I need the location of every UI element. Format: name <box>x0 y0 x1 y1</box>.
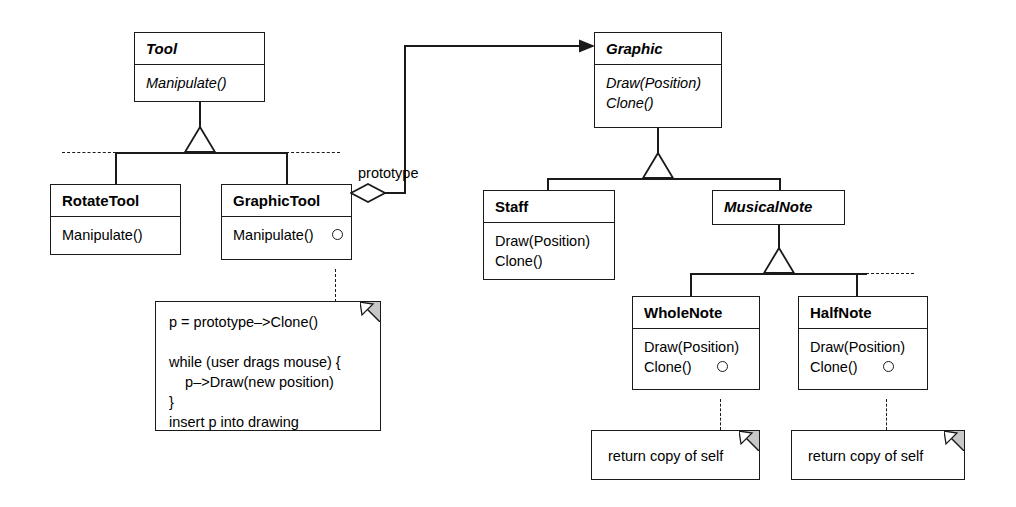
class-box-wholenote[interactable]: WholeNote Draw(Position) Clone() <box>632 296 760 390</box>
operation-manipulate: Manipulate() <box>146 73 253 93</box>
operation-draw: Draw(Position) <box>644 337 748 357</box>
class-box-tool[interactable]: Tool Manipulate() <box>134 32 265 102</box>
class-name-graphictool: GraphicTool <box>222 185 351 217</box>
generalization-drop-rotatetool <box>115 152 117 184</box>
class-operations-staff: Draw(Position) Clone() <box>484 223 614 277</box>
class-name-wholenote: WholeNote <box>633 297 759 329</box>
generalization-drop-halfnote <box>856 273 858 296</box>
class-name-graphic: Graphic <box>595 33 721 65</box>
generalization-drop-musicalnote <box>779 178 781 190</box>
class-operations-halfnote: Draw(Position) Clone() <box>799 329 927 383</box>
operation-clone: Clone() <box>810 357 916 377</box>
operation-draw: Draw(Position) <box>495 231 603 251</box>
operation-manipulate: Manipulate() <box>62 225 169 245</box>
prototype-link-arrowhead-icon <box>576 38 596 54</box>
operation-draw: Draw(Position) <box>606 73 710 93</box>
generalization-bar-dash-right-tool <box>286 152 340 153</box>
class-name-rotatetool: RotateTool <box>51 185 180 217</box>
uml-class-diagram: Tool Manipulate() RotateTool Manipulate(… <box>0 0 1016 507</box>
operation-clone: Clone() <box>495 251 603 271</box>
class-name-staff: Staff <box>484 191 614 223</box>
note-fold-icon <box>739 431 759 451</box>
operation-note-anchor-icon <box>883 361 894 372</box>
class-box-graphictool[interactable]: GraphicTool Manipulate() <box>221 184 352 260</box>
operation-note-anchor-icon <box>717 361 728 372</box>
generalization-bar-tool <box>115 152 287 154</box>
note-wholenote-clone[interactable]: return copy of self <box>591 430 760 480</box>
class-operations-wholenote: Draw(Position) Clone() <box>633 329 759 383</box>
note-fold-icon <box>944 431 964 451</box>
class-operations-graphic: Draw(Position) Clone() <box>595 65 721 119</box>
aggregation-diamond-prototype <box>350 182 386 204</box>
generalization-bar-graphic <box>547 178 780 180</box>
note-text: return copy of self <box>792 431 964 480</box>
class-name-tool: Tool <box>135 33 264 65</box>
generalization-stem-graphic <box>657 128 659 153</box>
generalization-triangle-tool <box>184 126 216 153</box>
prototype-association-label: prototype <box>358 165 418 181</box>
generalization-drop-wholenote <box>690 273 692 296</box>
note-fold-icon <box>360 302 380 322</box>
generalization-bar-dash-right-musicalnote <box>866 273 914 274</box>
generalization-drop-staff <box>547 178 549 190</box>
operation-note-anchor-icon <box>332 229 343 240</box>
operation-clone: Clone() <box>606 93 710 113</box>
note-text: p = prototype–>Clone() while (user drags… <box>156 302 380 431</box>
generalization-bar-dash-left-tool <box>62 152 116 153</box>
generalization-triangle-musicalnote <box>763 247 795 274</box>
class-operations-graphictool: Manipulate() <box>222 217 351 251</box>
note-halfnote-clone[interactable]: return copy of self <box>791 430 965 480</box>
note-graphictool-code[interactable]: p = prototype–>Clone() while (user drags… <box>155 301 381 431</box>
class-box-graphic[interactable]: Graphic Draw(Position) Clone() <box>594 32 722 128</box>
operation-draw: Draw(Position) <box>810 337 916 357</box>
class-box-musicalnote[interactable]: MusicalNote <box>712 190 845 225</box>
class-operations-tool: Manipulate() <box>135 65 264 99</box>
note-leader-wholenote <box>720 399 721 430</box>
prototype-link-segment-horizontal-lower <box>384 192 406 194</box>
class-name-halfnote: HalfNote <box>799 297 927 329</box>
note-leader-halfnote <box>886 399 887 430</box>
class-box-halfnote[interactable]: HalfNote Draw(Position) Clone() <box>798 296 928 390</box>
note-text: return copy of self <box>592 431 759 480</box>
generalization-stem-tool <box>199 102 201 127</box>
generalization-triangle-graphic <box>642 152 674 179</box>
class-box-rotatetool[interactable]: RotateTool Manipulate() <box>50 184 181 255</box>
operation-manipulate: Manipulate() <box>233 225 340 245</box>
class-operations-rotatetool: Manipulate() <box>51 217 180 251</box>
note-leader-graphictool <box>335 269 336 302</box>
generalization-stem-musicalnote <box>778 225 780 248</box>
class-box-staff[interactable]: Staff Draw(Position) Clone() <box>483 190 615 280</box>
class-name-musicalnote: MusicalNote <box>713 191 844 223</box>
operation-clone: Clone() <box>644 357 748 377</box>
prototype-link-segment-horizontal-upper <box>404 45 579 47</box>
generalization-drop-graphictool <box>286 152 288 184</box>
generalization-bar-musicalnote <box>690 273 867 275</box>
